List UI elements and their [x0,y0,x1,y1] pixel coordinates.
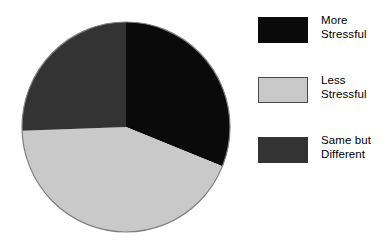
legend-swatch-less-stressful [258,77,308,103]
legend: More Stressful Less Stressful Same but D… [258,14,386,194]
legend-label-same-but-different: Same but Different [321,134,371,161]
legend-item-less-stressful[interactable]: Less Stressful [258,74,386,134]
legend-swatch-same-but-different [258,137,308,163]
pie-slices [22,22,230,232]
legend-label-more-stressful: More Stressful [321,14,367,41]
pie-chart-svg [21,21,231,233]
pie-chart-figure: More Stressful Less Stressful Same but D… [0,0,389,249]
legend-item-same-but-different[interactable]: Same but Different [258,134,386,194]
legend-swatch-more-stressful [258,17,308,43]
pie-chart [21,21,231,233]
legend-label-less-stressful: Less Stressful [321,74,367,101]
legend-item-more-stressful[interactable]: More Stressful [258,14,386,74]
pie-slice-same-but-different[interactable] [22,22,126,131]
